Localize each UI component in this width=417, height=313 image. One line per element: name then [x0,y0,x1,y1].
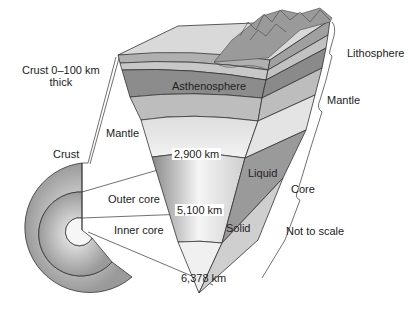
depth-2900-label: 2,900 km [172,148,221,160]
earth-structure-diagram: Crust 0–100 km thick Lithosphere Astheno… [0,0,417,313]
solid-label: Solid [226,222,250,234]
liquid-label: Liquid [248,167,277,179]
crust-label: Crust [53,148,79,160]
crust-thickness-label: Crust 0–100 km thick [22,64,100,88]
crust-thickness-line1: Crust 0–100 km [22,64,100,76]
inner-core-label: Inner core [114,224,164,236]
not-to-scale-label: Not to scale [286,225,344,237]
depth-6378-label: 6,378 km [181,272,226,284]
mantle-left-label: Mantle [106,127,139,139]
crust-thickness-line2: thick [22,76,100,88]
depth-5100-label: 5,100 km [175,204,224,216]
lithosphere-label: Lithosphere [347,47,405,59]
mantle-right-label: Mantle [327,94,360,106]
outer-core-label: Outer core [108,193,160,205]
core-label: Core [291,183,315,195]
asthenosphere-label: Asthenosphere [172,80,246,92]
